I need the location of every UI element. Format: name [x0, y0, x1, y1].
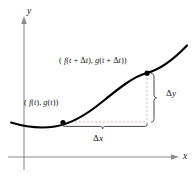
figure-canvas: y x ( f(t + Δt), g(t + Δt)) ( f(t), g(t)… [0, 0, 196, 180]
x-axis-arrowhead [171, 154, 179, 160]
delta-x-label: Δx [93, 134, 103, 143]
lower-point-marker [60, 120, 65, 125]
y-axis-label: y [27, 7, 31, 17]
upper-point-label: ( f(t + Δt), g(t + Δt)) [59, 57, 126, 65]
upper-point-marker [144, 71, 149, 76]
delta-x-brace [62, 124, 147, 129]
delta-y-label: Δy [166, 89, 176, 98]
delta-y-brace [152, 74, 157, 123]
y-axis-arrowhead [21, 16, 27, 24]
dashed-guides-group [63, 74, 147, 122]
lower-point-label: ( f(t), g(t)) [24, 99, 58, 107]
x-axis-label: x [183, 152, 187, 162]
point-markers-group [60, 71, 149, 126]
axes-group [8, 16, 179, 170]
